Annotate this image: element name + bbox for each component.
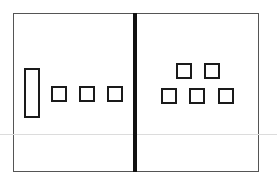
unit-cube-block: [51, 86, 67, 102]
unit-cube-block: [79, 86, 95, 102]
ten-rod-block: [24, 68, 40, 118]
unit-cube-block: [189, 88, 205, 104]
unit-cube-block: [107, 86, 123, 102]
unit-cube-block: [218, 88, 234, 104]
unit-cube-block: [204, 63, 220, 79]
scan-artifact-line: [0, 134, 277, 135]
panel-divider: [133, 13, 137, 172]
unit-cube-block: [161, 88, 177, 104]
unit-cube-block: [176, 63, 192, 79]
